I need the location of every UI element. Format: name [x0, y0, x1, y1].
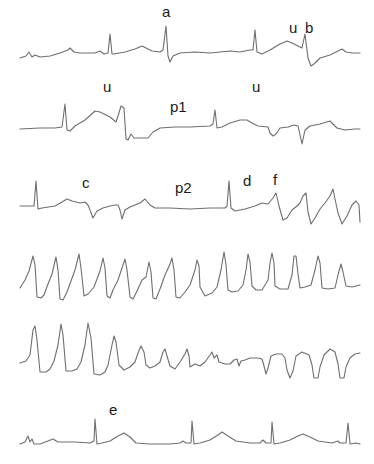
label-d: d — [243, 173, 251, 188]
label-p1: p1 — [170, 99, 187, 114]
ecg-traces — [0, 0, 374, 464]
label-e: e — [109, 402, 117, 417]
ecg-figure: a u b u p1 u c p2 d f e — [0, 0, 374, 464]
label-a: a — [162, 4, 170, 19]
label-p2: p2 — [175, 180, 192, 195]
label-c: c — [82, 175, 90, 190]
label-f: f — [273, 172, 277, 187]
ecg-strip-6 — [20, 419, 360, 444]
ecg-strip-4 — [20, 252, 360, 300]
label-b: b — [305, 20, 313, 35]
label-u-strip2-right: u — [252, 79, 260, 94]
label-u-strip2-left: u — [103, 79, 111, 94]
ecg-strip-2 — [20, 104, 360, 144]
label-u-strip1: u — [289, 20, 297, 35]
ecg-strip-5 — [20, 323, 360, 378]
